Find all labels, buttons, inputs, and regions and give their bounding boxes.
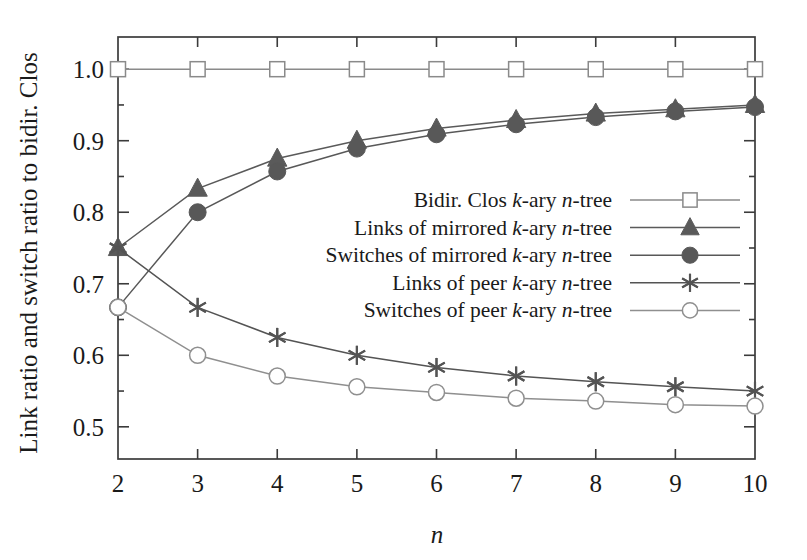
- marker-open-square: [270, 62, 285, 77]
- x-tick-label: 10: [743, 470, 768, 497]
- marker-filled-circle: [587, 109, 604, 126]
- legend-item[interactable]: Switches of mirrored k-ary n-tree: [325, 243, 740, 267]
- legend-item[interactable]: Switches of peer k-ary n-tree: [364, 298, 740, 322]
- y-tick-label: 0.6: [73, 342, 104, 369]
- marker-open-square: [748, 62, 763, 77]
- x-tick-label: 7: [510, 470, 523, 497]
- marker-open-circle: [508, 390, 524, 406]
- y-axis-label: Link ratio and switch ratio to bidir. Cl…: [15, 52, 42, 453]
- marker-open-circle: [269, 368, 285, 384]
- marker-filled-triangle: [188, 178, 207, 196]
- marker-asterisk: [189, 298, 205, 317]
- marker-open-square: [588, 62, 603, 77]
- marker-filled-circle: [667, 103, 684, 120]
- x-tick-label: 8: [590, 470, 603, 497]
- chart-figure: Link ratio and switch ratio to bidir. Cl…: [0, 0, 807, 560]
- legend-label: Links of mirrored k-ary n-tree: [354, 216, 612, 240]
- legend-label: Links of peer k-ary n-tree: [392, 271, 612, 295]
- x-tick-label: 5: [351, 470, 364, 497]
- marker-open-circle: [747, 398, 763, 414]
- x-tick-label: 9: [669, 470, 682, 497]
- marker-filled-circle: [682, 247, 698, 263]
- legend-label: Bidir. Clos k-ary n-tree: [414, 188, 612, 212]
- marker-open-square: [668, 62, 683, 77]
- marker-open-square: [683, 193, 697, 207]
- legend-item[interactable]: Links of mirrored k-ary n-tree: [354, 216, 740, 240]
- marker-open-square: [509, 62, 524, 77]
- y-tick-label: 0.9: [73, 128, 104, 155]
- marker-open-square: [349, 62, 364, 77]
- series-0: [111, 62, 763, 77]
- x-tick-label: 2: [112, 470, 125, 497]
- marker-filled-circle: [508, 116, 525, 133]
- legend-label: Switches of mirrored k-ary n-tree: [325, 243, 612, 267]
- marker-open-square: [429, 62, 444, 77]
- marker-open-circle: [667, 397, 683, 413]
- x-axis-label: n: [431, 521, 444, 548]
- legend-item[interactable]: Bidir. Clos k-ary n-tree: [414, 188, 740, 212]
- marker-filled-circle: [428, 126, 445, 143]
- marker-asterisk: [349, 346, 365, 365]
- legend-item[interactable]: Links of peer k-ary n-tree: [392, 271, 740, 295]
- marker-filled-circle: [189, 204, 206, 221]
- marker-filled-circle: [747, 99, 764, 116]
- marker-open-square: [190, 62, 205, 77]
- marker-open-circle: [429, 384, 445, 400]
- y-tick-label: 1.0: [73, 56, 104, 83]
- marker-open-circle: [588, 393, 604, 409]
- marker-open-circle: [682, 303, 697, 318]
- marker-open-circle: [110, 299, 126, 315]
- y-tick-label: 0.5: [73, 414, 104, 441]
- y-tick-labels: 0.50.60.70.80.91.0: [73, 56, 104, 441]
- x-tick-label: 4: [271, 470, 284, 497]
- marker-open-circle: [190, 347, 206, 363]
- legend-label: Switches of peer k-ary n-tree: [364, 298, 612, 322]
- marker-filled-triangle: [681, 218, 699, 235]
- x-tick-labels: 2345678910: [112, 470, 768, 497]
- marker-filled-circle: [348, 140, 365, 157]
- y-tick-label: 0.7: [73, 271, 104, 298]
- line-chart: Link ratio and switch ratio to bidir. Cl…: [0, 0, 807, 560]
- x-tick-label: 3: [191, 470, 204, 497]
- marker-open-circle: [349, 379, 365, 395]
- x-tick-label: 6: [430, 470, 443, 497]
- marker-open-square: [111, 62, 126, 77]
- chart-legend: Bidir. Clos k-ary n-treeLinks of mirrore…: [325, 188, 740, 322]
- marker-filled-circle: [269, 163, 286, 180]
- marker-asterisk: [269, 328, 285, 347]
- y-tick-label: 0.8: [73, 199, 104, 226]
